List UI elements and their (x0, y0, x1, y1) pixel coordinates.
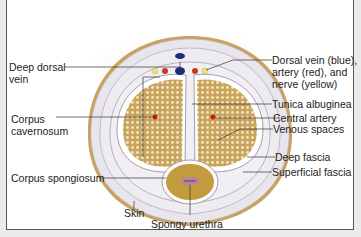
label-tunica-albuginea: Tunica albuginea (272, 98, 352, 110)
label-corpus-cavernosum: Corpus cavernosum (11, 113, 68, 137)
label-dorsal-vessels: Dorsal vein (blue), artery (red), and ne… (272, 54, 357, 90)
label-corpus-spongiosum: Corpus spongiosum (11, 172, 104, 184)
label-superficial-fascia: Superficial fascia (272, 166, 351, 178)
label-deep-fascia: Deep fascia (275, 151, 330, 163)
label-venous-spaces: Venous spaces (273, 123, 344, 135)
label-deep-dorsal-vein: Deep dorsal vein (9, 61, 66, 85)
label-skin: Skin (124, 207, 144, 219)
label-spongy-urethra: Spongy urethra (151, 218, 223, 230)
